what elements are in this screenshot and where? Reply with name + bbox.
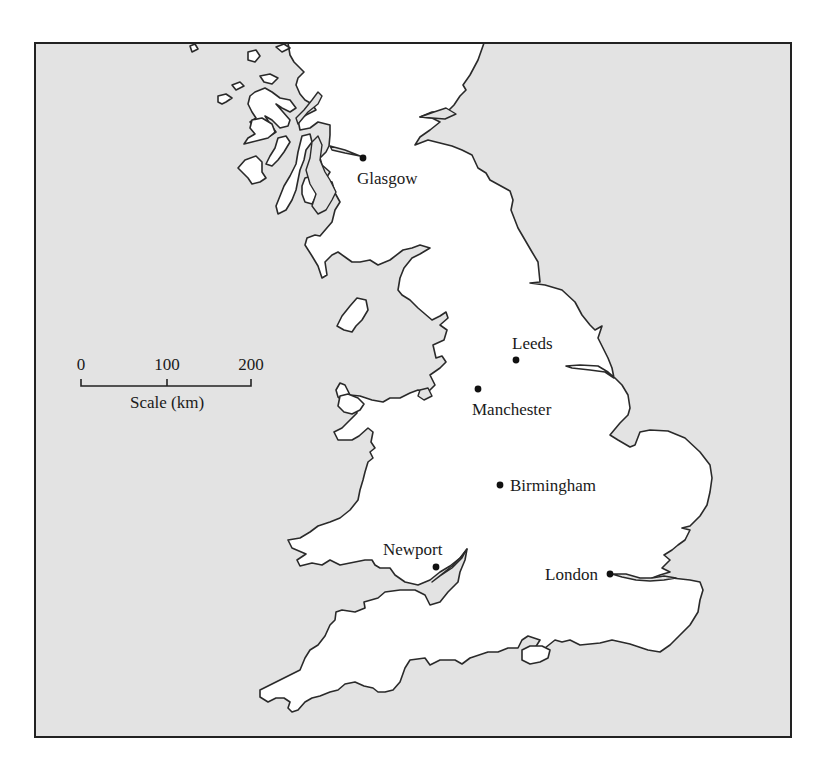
city-dot-glasgow [360, 155, 367, 162]
city-dot-manchester [475, 386, 482, 393]
scale-bar-title: Scale (km) [130, 393, 204, 412]
city-dot-leeds [513, 357, 520, 364]
map-figure: Glasgow Leeds Manchester Birmingham Newp… [0, 0, 826, 765]
city-birmingham[interactable]: Birmingham [497, 476, 596, 495]
scale-tick-label-200: 200 [238, 355, 264, 374]
city-label-leeds: Leeds [512, 334, 553, 353]
city-label-newport: Newport [383, 540, 443, 559]
city-dot-newport [433, 564, 440, 571]
city-label-manchester: Manchester [472, 400, 552, 419]
city-dot-birmingham [497, 482, 504, 489]
city-label-london: London [545, 565, 598, 584]
scale-tick-label-100: 100 [154, 355, 180, 374]
map-canvas: Glasgow Leeds Manchester Birmingham Newp… [0, 0, 826, 765]
city-label-birmingham: Birmingham [510, 476, 596, 495]
city-dot-london [607, 571, 614, 578]
scale-tick-label-0: 0 [77, 355, 86, 374]
city-label-glasgow: Glasgow [357, 169, 418, 188]
